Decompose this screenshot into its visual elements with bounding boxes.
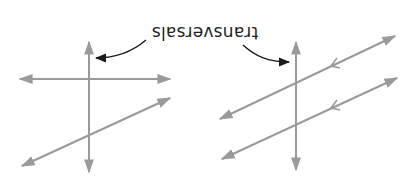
right-callout-arrow	[243, 45, 289, 62]
left-callout-arrow	[96, 40, 146, 58]
transversals-label: transversals	[148, 22, 262, 44]
left-slanted-line	[22, 98, 170, 166]
right-diagram	[220, 36, 397, 170]
right-parallel-line-lower	[222, 78, 397, 159]
transversals-figure: transversals	[0, 0, 418, 180]
left-diagram	[20, 40, 170, 172]
